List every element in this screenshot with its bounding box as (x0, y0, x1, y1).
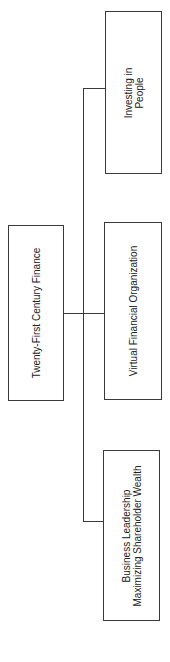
connector-root (63, 313, 105, 314)
connector-investing (83, 88, 105, 89)
child-node-business-label: Business Leadership Maximizing Sharehold… (121, 465, 143, 606)
label-line: Business Leadership (121, 465, 132, 606)
root-label-text: Twenty-First Century Finance (31, 248, 42, 379)
child-node-investing: Investing in People (105, 11, 162, 174)
root-node-label: Twenty-First Century Finance (31, 248, 42, 379)
label-line: Virtual Financial Organization (128, 246, 139, 376)
root-node: Twenty-First Century Finance (8, 225, 64, 401)
label-line: People (134, 67, 145, 118)
label-line: Maximizing Shareholder Wealth (132, 465, 143, 606)
child-node-virtual-label: Virtual Financial Organization (128, 246, 139, 376)
child-node-investing-label: Investing in People (123, 67, 145, 118)
child-node-business: Business Leadership Maximizing Sharehold… (103, 450, 160, 621)
child-node-virtual: Virtual Financial Organization (104, 222, 162, 400)
connector-business (83, 521, 104, 522)
label-line: Investing in (123, 67, 134, 118)
trunk-connector (83, 88, 84, 522)
